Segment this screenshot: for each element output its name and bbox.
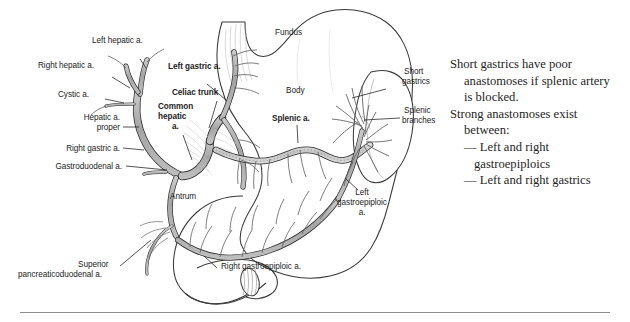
label-common-hepatic-artery-line2: hepatic — [158, 112, 186, 122]
note-line-2: anastomoses if splenic artery — [450, 73, 626, 90]
label-hepatic-artery-proper-line1: Hepatic a. — [38, 113, 120, 123]
leader-cystic — [105, 99, 124, 103]
bottom-divider-rule — [20, 312, 610, 313]
label-fundus: Fundus — [275, 28, 302, 38]
label-antrum: Antrum — [170, 192, 196, 202]
note-line-7: gastroepiploics — [450, 156, 626, 173]
label-body: Body — [286, 86, 304, 96]
label-left-gastric-artery: Left gastric a. — [168, 62, 221, 72]
label-left-gastroepiploic-line1: Left — [326, 188, 398, 198]
note-line-6: — Left and right — [450, 139, 626, 156]
note-line-5: between: — [450, 122, 626, 139]
note-line-3: is blocked. — [450, 89, 626, 106]
label-left-hepatic-artery: Left hepatic a. — [92, 36, 143, 46]
label-left-gastroepiploic-line3: a. — [326, 208, 398, 218]
label-short-gastrics-line2: gastrics — [402, 77, 430, 87]
label-left-gastroepiploic-line2: gastroepiploic — [326, 198, 398, 208]
note-line-4: Strong anastomoses exist — [450, 106, 626, 123]
label-splenic-branches-line2: branches — [402, 116, 435, 126]
label-short-gastrics-line1: Short — [404, 67, 423, 77]
label-right-gastroepiploic-artery: Right gastroepiploic a. — [221, 262, 301, 272]
label-common-hepatic-artery-line1: Common — [158, 102, 193, 112]
stomach-arterial-supply-figure: Left hepatic a. Right hepatic a. Cystic … — [0, 0, 630, 322]
label-hepatic-artery-proper-line2: proper — [38, 123, 120, 133]
label-gastroduodenal-artery: Gastroduodenal a. — [16, 162, 122, 172]
clinical-notes-panel: Short gastrics have poor anastomoses if … — [450, 56, 626, 189]
label-right-gastric-artery: Right gastric a. — [26, 144, 120, 154]
label-splenic-branches-line1: Splenic — [404, 106, 431, 116]
label-superior-pancreaticoduodenal-line2: pancreaticoduodenal a. — [18, 270, 102, 280]
leader-right-hepatic — [112, 77, 130, 88]
leader-common-hepatic — [183, 135, 192, 160]
note-line-1: Short gastrics have poor — [450, 56, 626, 73]
pancreaticoduodenal-branches — [140, 222, 170, 257]
label-superior-pancreaticoduodenal-line1: Superior — [78, 260, 109, 270]
label-celiac-trunk: Celiac trunk — [172, 88, 218, 98]
label-right-hepatic-artery: Right hepatic a. — [38, 61, 94, 71]
note-line-8: — Left and right gastrics — [450, 172, 626, 189]
leader-right-gastric — [123, 148, 144, 150]
label-cystic-artery: Cystic a. — [58, 90, 89, 100]
label-splenic-artery: Splenic a. — [272, 114, 310, 124]
label-common-hepatic-artery-line3: a. — [172, 122, 179, 132]
